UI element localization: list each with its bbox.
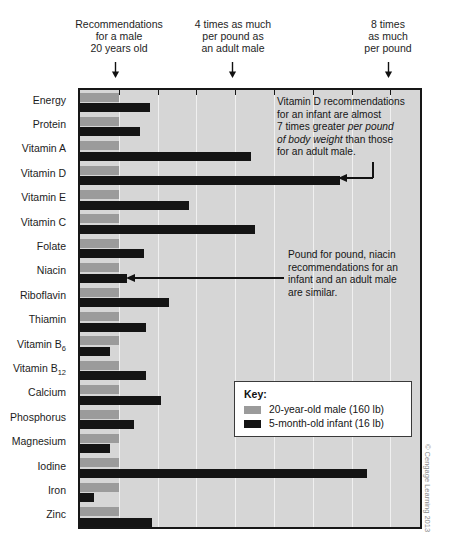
bar-male [80, 336, 119, 345]
bar-male [80, 288, 119, 297]
bar-male [80, 434, 119, 443]
legend-swatch-male [244, 406, 261, 414]
legend-entry-male: 20-year-old male (160 lb) [244, 404, 403, 415]
bar-row [80, 334, 422, 358]
bar-infant [80, 347, 110, 356]
bar-male [80, 458, 119, 467]
category-label-vitamin-c: Vitamin C [21, 216, 66, 228]
bar-row [80, 505, 422, 529]
bar-row [80, 310, 422, 334]
bar-male [80, 141, 119, 150]
bar-infant [80, 152, 251, 161]
category-label-vitamin-e: Vitamin E [21, 191, 66, 203]
category-label-calcium: Calcium [28, 386, 66, 398]
bar-infant [80, 225, 255, 234]
vitamin-d-annotation: Vitamin D recommendations for an infant … [277, 96, 449, 159]
bar-male [80, 263, 119, 272]
header-note-2: 4 times as much per pound as an adult ma… [163, 18, 303, 55]
bar-male [80, 507, 119, 516]
niacin-annotation: Pound for pound, niacin recommendations … [288, 249, 448, 299]
bar-male [80, 385, 119, 394]
nutrient-comparison-chart: Recommendations for a male 20 years old … [0, 0, 461, 548]
category-label-magnesium: Magnesium [12, 435, 66, 447]
bar-row [80, 212, 422, 236]
vitamin-d-arrowhead [338, 174, 347, 182]
category-label-iron: Iron [48, 484, 66, 496]
category-label-thiamin: Thiamin [29, 313, 66, 325]
category-label-vitamin-d: Vitamin D [21, 167, 66, 179]
category-label-subscript: 12 [58, 368, 66, 377]
bar-infant [80, 469, 367, 478]
bar-infant [80, 420, 134, 429]
legend-entry-infant: 5-month-old infant (16 lb) [244, 418, 403, 429]
category-label-subscript: 6 [62, 344, 66, 353]
legend-swatch-infant [244, 420, 261, 428]
category-label-folate: Folate [37, 240, 66, 252]
plot-bottom-border [78, 527, 422, 529]
category-label-phosphorus: Phosphorus [10, 411, 66, 423]
bar-male [80, 93, 119, 102]
bar-male [80, 117, 119, 126]
legend-label-infant: 5-month-old infant (16 lb) [269, 418, 384, 429]
category-label-vitamin-b12: Vitamin B12 [13, 362, 66, 379]
vitamin-d-leader-vertical [372, 162, 374, 178]
legend-title: Key: [244, 388, 403, 400]
bar-infant [80, 249, 144, 258]
bar-male [80, 483, 119, 492]
bar-male [80, 190, 119, 199]
bar-infant [80, 103, 150, 112]
bar-infant [80, 396, 161, 405]
bar-row [80, 480, 422, 504]
category-label-riboflavin: Riboflavin [20, 289, 66, 301]
down-arrow-icon [111, 62, 120, 78]
category-label-vitamin-a: Vitamin A [22, 142, 66, 154]
category-label-protein: Protein [33, 118, 66, 130]
bar-infant [80, 274, 127, 283]
bar-row [80, 358, 422, 382]
bar-male [80, 239, 119, 248]
bar-male [80, 166, 119, 175]
bar-row [80, 163, 422, 187]
category-label-energy: Energy [33, 94, 66, 106]
bar-infant [80, 518, 152, 527]
bar-row [80, 456, 422, 480]
bar-infant [80, 493, 94, 502]
bar-male [80, 361, 119, 370]
category-label-iodine: Iodine [37, 460, 66, 472]
bar-male [80, 312, 119, 321]
bar-infant [80, 201, 189, 210]
category-label-niacin: Niacin [37, 264, 66, 276]
bar-infant [80, 444, 110, 453]
down-arrow-icon [228, 62, 237, 78]
vitamin-d-leader-horizontal [347, 177, 373, 179]
bar-infant [80, 176, 340, 185]
niacin-leader-horizontal [134, 277, 284, 279]
category-label-zinc: Zinc [46, 508, 66, 520]
category-axis-labels: EnergyProteinVitamin AVitamin DVitamin E… [0, 88, 72, 527]
copyright-credit: © Cengage Learning 2013 [423, 444, 432, 532]
bar-infant [80, 298, 169, 307]
niacin-arrowhead [126, 274, 135, 282]
legend: Key: 20-year-old male (160 lb) 5-month-o… [234, 381, 412, 437]
bar-male [80, 214, 119, 223]
bar-male [80, 410, 119, 419]
bar-infant [80, 127, 140, 136]
down-arrow-icon [384, 62, 393, 78]
bar-infant [80, 323, 146, 332]
bar-infant [80, 371, 146, 380]
bar-row [80, 188, 422, 212]
category-label-vitamin-b6: Vitamin B6 [17, 338, 66, 355]
header-note-3: 8 times as much per pound [329, 18, 447, 55]
legend-label-male: 20-year-old male (160 lb) [269, 404, 384, 415]
